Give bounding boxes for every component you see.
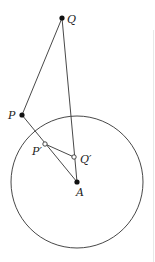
right-edge-divider — [153, 30, 154, 262]
point-q-prime — [72, 155, 76, 159]
segment-qp — [22, 18, 62, 115]
point-p-prime — [43, 142, 47, 146]
label-q: Q — [67, 13, 76, 26]
point-p — [19, 112, 24, 117]
label-p-prime: P′ — [31, 145, 42, 158]
segment-pprime-qprime — [45, 144, 74, 157]
point-q — [59, 15, 64, 20]
label-q-prime: Q′ — [80, 153, 92, 166]
label-a: A — [75, 186, 84, 199]
label-p: P — [7, 109, 16, 122]
segment-pa — [22, 115, 77, 182]
point-a — [74, 179, 79, 184]
diagram-canvas: Q P P′ Q′ A — [0, 0, 155, 262]
